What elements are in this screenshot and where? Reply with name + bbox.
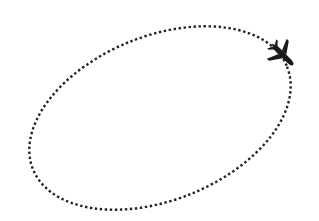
illustration-canvas — [0, 0, 319, 221]
dotted-orbit-path — [2, 0, 317, 221]
flight-path-graphic — [0, 0, 319, 221]
airplane-icon — [262, 34, 303, 75]
